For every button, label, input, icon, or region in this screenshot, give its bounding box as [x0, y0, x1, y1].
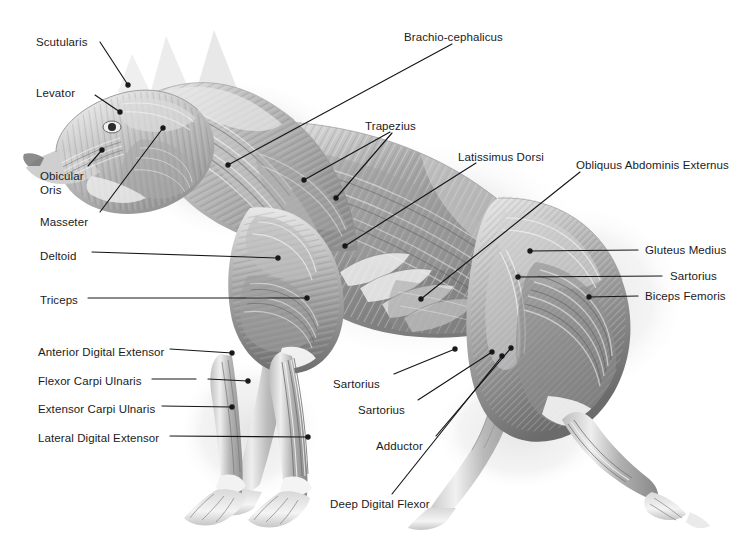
leader-sartorius-right-endpoint — [516, 275, 520, 279]
label-sartorius-lower-1: Sartorius — [333, 378, 380, 392]
label-masseter: Masseter — [40, 216, 88, 230]
label-levator: Levator — [36, 87, 75, 101]
label-triceps: Triceps — [40, 294, 78, 308]
label-scutularis: Scutularis — [36, 36, 88, 50]
label-brachio-cephalicus: Brachio-cephalicus — [404, 31, 503, 45]
label-obliquus-abdominis-externus: Obliquus Abdominis Externus — [576, 159, 729, 173]
dog-muscle-illustration — [0, 0, 755, 550]
leader-sartorius-lower-1-endpoint — [453, 347, 457, 351]
label-gluteus-medius: Gluteus Medius — [645, 244, 726, 258]
label-anterior-digital-extensor: Anterior Digital Extensor — [38, 346, 165, 360]
anatomy-figure: ScutularisLevatorObicular OrisMasseterDe… — [0, 0, 755, 550]
leader-sartorius-lower-2-endpoint — [490, 350, 494, 354]
label-flexor-carpi-ulnaris: Flexor Carpi Ulnaris — [38, 375, 142, 389]
leader-latissimus-dorsi-endpoint — [343, 244, 347, 248]
label-biceps-femoris: Biceps Femoris — [645, 290, 726, 304]
leader-anterior-digital-extensor — [170, 349, 232, 353]
leader-triceps-endpoint — [305, 296, 309, 300]
leader-obliquus-endpoint — [419, 297, 423, 301]
label-sartorius-right: Sartorius — [670, 270, 717, 284]
leader-levator-endpoint — [118, 110, 122, 114]
leader-brachio-cephalicus-endpoint — [226, 163, 230, 167]
leader-scutularis — [100, 42, 128, 85]
leader-extensor-carpi-ulnaris-endpoint — [230, 405, 234, 409]
leader-deep-digital-flexor-endpoint — [500, 354, 504, 358]
shadow-toe — [686, 512, 710, 528]
leader-lateral-digital-extensor-endpoint — [306, 435, 310, 439]
label-extensor-carpi-ulnaris: Extensor Carpi Ulnaris — [38, 403, 155, 417]
label-sartorius-lower-2: Sartorius — [358, 404, 405, 418]
leader-trapezius-b-endpoint — [334, 196, 338, 200]
label-obicular-oris: Obicular Oris — [40, 170, 84, 197]
label-adductor: Adductor — [376, 440, 423, 454]
label-deep-digital-flexor: Deep Digital Flexor — [330, 498, 430, 512]
leader-gluteus-medius-endpoint — [528, 249, 532, 253]
label-latissimus-dorsi: Latissimus Dorsi — [458, 151, 544, 165]
label-trapezius: Trapezius — [365, 120, 416, 134]
leader-adductor-endpoint — [509, 346, 513, 350]
leader-obicular-oris-endpoint — [100, 148, 104, 152]
leader-anterior-digital-extensor-endpoint — [230, 351, 234, 355]
label-deltoid: Deltoid — [40, 250, 77, 264]
leader-biceps-femoris-endpoint — [587, 295, 591, 299]
leader-scutularis-endpoint — [126, 83, 130, 87]
label-lateral-digital-extensor: Lateral Digital Extensor — [38, 432, 159, 446]
leader-masseter-endpoint — [161, 126, 165, 130]
leader-deltoid-endpoint — [276, 256, 280, 260]
leader-trapezius-a-endpoint — [302, 178, 306, 182]
leader-flexor-carpi-ulnaris-b-endpoint — [246, 379, 250, 383]
